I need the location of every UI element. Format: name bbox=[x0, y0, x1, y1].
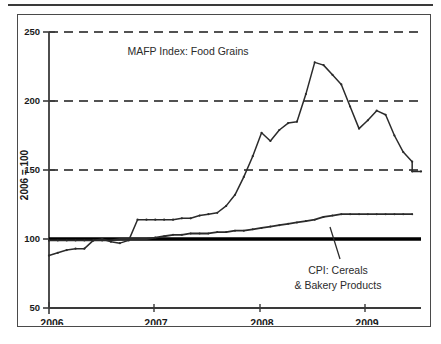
data-point bbox=[243, 176, 245, 178]
line-chart: 250 200 150 100 50 2006 = 100 2006 2007 … bbox=[18, 15, 429, 325]
top-horizontal-rule bbox=[8, 4, 433, 6]
figure-frame: 250 200 150 100 50 2006 = 100 2006 2007 … bbox=[17, 14, 431, 327]
y-tick-label-250: 250 bbox=[24, 26, 40, 37]
data-point bbox=[376, 110, 378, 112]
data-point bbox=[66, 249, 68, 251]
data-point bbox=[358, 213, 360, 215]
data-point bbox=[154, 219, 156, 221]
data-point bbox=[296, 221, 298, 223]
data-point bbox=[225, 231, 227, 233]
data-point bbox=[119, 238, 121, 240]
y-tick-label-50: 50 bbox=[29, 302, 40, 313]
data-point bbox=[172, 219, 174, 221]
data-point bbox=[349, 213, 351, 215]
data-point bbox=[57, 239, 59, 241]
series-markers-cpi bbox=[48, 213, 413, 241]
data-point bbox=[367, 213, 369, 215]
data-point bbox=[393, 134, 395, 136]
data-point bbox=[110, 239, 112, 241]
series-line-mafp bbox=[49, 62, 421, 255]
data-point bbox=[358, 128, 360, 130]
data-point bbox=[128, 238, 130, 240]
data-point bbox=[101, 239, 103, 241]
data-point bbox=[66, 239, 68, 241]
data-point bbox=[420, 170, 422, 172]
data-point bbox=[74, 248, 76, 250]
data-point bbox=[278, 129, 280, 131]
y-tick-label-200: 200 bbox=[24, 95, 40, 106]
data-point bbox=[331, 215, 333, 217]
x-tick-label-2008: 2008 bbox=[250, 317, 274, 325]
data-point bbox=[287, 122, 289, 124]
data-point bbox=[385, 213, 387, 215]
data-point bbox=[181, 217, 183, 219]
data-point bbox=[411, 213, 413, 215]
data-point bbox=[83, 248, 85, 250]
data-point bbox=[402, 213, 404, 215]
data-point bbox=[376, 213, 378, 215]
x-axis: 2006 2007 2008 2009 bbox=[40, 302, 421, 325]
data-point bbox=[207, 213, 209, 215]
data-point bbox=[402, 151, 404, 153]
data-point bbox=[199, 214, 201, 216]
data-point bbox=[252, 228, 254, 230]
data-point bbox=[207, 232, 209, 234]
data-point bbox=[190, 232, 192, 234]
data-point bbox=[314, 219, 316, 221]
x-tick-label-2009: 2009 bbox=[355, 317, 379, 325]
x-tick-label-2006: 2006 bbox=[40, 317, 64, 325]
series-line-cpi bbox=[49, 214, 412, 240]
data-point bbox=[199, 232, 201, 234]
data-point bbox=[252, 155, 254, 157]
annotation-mafp-label: MAFP Index: Food Grains bbox=[127, 45, 248, 57]
data-point bbox=[172, 234, 174, 236]
data-point bbox=[48, 254, 50, 256]
data-point bbox=[48, 239, 50, 241]
data-point bbox=[119, 242, 121, 244]
annotation-cpi-label-line2: & Bakery Products bbox=[295, 279, 382, 291]
data-point bbox=[323, 216, 325, 218]
x-tick-label-2007: 2007 bbox=[144, 317, 168, 325]
data-point bbox=[393, 213, 395, 215]
y-axis-title: 2006 = 100 bbox=[19, 149, 30, 200]
data-point bbox=[287, 223, 289, 225]
data-point bbox=[137, 238, 139, 240]
data-point bbox=[411, 170, 413, 172]
data-point bbox=[367, 119, 369, 121]
data-point bbox=[92, 239, 94, 241]
data-point bbox=[261, 227, 263, 229]
data-point bbox=[225, 205, 227, 207]
data-point bbox=[340, 213, 342, 215]
data-point bbox=[260, 132, 262, 134]
data-point bbox=[181, 234, 183, 236]
data-point bbox=[136, 219, 138, 221]
data-point bbox=[216, 212, 218, 214]
data-point bbox=[305, 220, 307, 222]
data-point bbox=[269, 140, 271, 142]
data-point bbox=[269, 226, 271, 228]
data-point bbox=[314, 61, 316, 63]
data-point bbox=[154, 237, 156, 239]
data-point bbox=[163, 235, 165, 237]
y-axis: 250 200 150 100 50 2006 = 100 bbox=[19, 26, 55, 313]
data-point bbox=[305, 93, 307, 95]
data-point bbox=[385, 114, 387, 116]
y-tick-label-100: 100 bbox=[24, 233, 40, 244]
series-markers-mafp bbox=[48, 61, 422, 256]
data-point bbox=[145, 219, 147, 221]
data-point bbox=[331, 74, 333, 76]
data-point bbox=[57, 252, 59, 254]
data-point bbox=[75, 239, 77, 241]
data-point bbox=[340, 83, 342, 85]
data-point bbox=[278, 224, 280, 226]
data-point bbox=[411, 161, 413, 163]
data-point bbox=[234, 230, 236, 232]
data-point bbox=[190, 217, 192, 219]
data-point bbox=[349, 105, 351, 107]
data-point bbox=[145, 238, 147, 240]
data-point bbox=[243, 230, 245, 232]
annotation-cpi-label-line1: CPI: Cereals bbox=[308, 264, 368, 276]
data-point bbox=[163, 219, 165, 221]
data-point bbox=[296, 121, 298, 123]
leader-line-cpi bbox=[330, 227, 340, 259]
